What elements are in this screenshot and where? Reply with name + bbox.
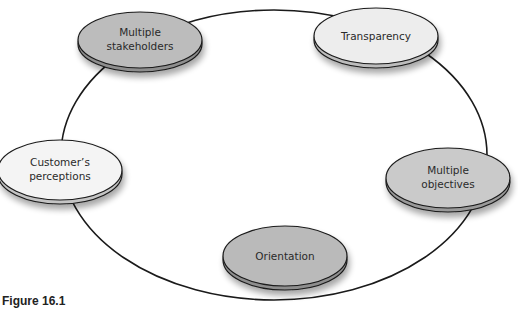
node-label: Multiple: [119, 26, 161, 38]
node-label: Multiple: [427, 164, 469, 176]
cycle-diagram: Multiple stakeholders Transparency Multi…: [0, 0, 518, 314]
node-label: Orientation: [255, 250, 314, 262]
figure-caption: Figure 16.1: [2, 294, 65, 308]
node-label: Transparency: [340, 30, 411, 42]
node-label: objectives: [421, 178, 474, 190]
node-label: stakeholders: [106, 40, 173, 52]
node-label: perceptions: [29, 170, 91, 182]
node-label: Customer’s: [30, 156, 90, 168]
